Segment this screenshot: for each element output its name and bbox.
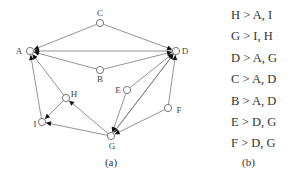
node-c: C [96,8,103,27]
node-label: H [71,89,78,99]
directed-graph: ABCDEFGHI (a) [0,0,210,178]
node-h: H [62,89,77,102]
edge-b-to-a [34,52,97,69]
graph-edges [31,24,176,135]
rule-item: G > I, H [231,27,295,48]
caption-b: (b) [242,156,255,168]
node-label: A [16,46,23,56]
edge-g-to-d [113,54,173,133]
node-label: C [97,8,103,18]
edge-e-to-d [130,54,173,88]
node-circle [164,104,171,111]
node-f: F [164,104,181,115]
edge-h-to-a [32,54,63,95]
rule-item: E > D, G [231,113,295,134]
rule-item: D > A, G [231,49,295,70]
graph-nodes: ABCDEFGHI [16,8,189,151]
node-e: E [115,85,130,95]
edge-c-to-a [34,24,97,49]
node-a: A [16,46,34,56]
node-circle [123,86,130,93]
node-circle [38,118,45,125]
dominance-rules-list: H > A, I G > I, H D > A, G C > A, D B > … [231,6,295,156]
rule-item: C > A, D [231,70,295,91]
edge-h-to-i [45,101,64,120]
node-circle [96,66,103,73]
node-circle [107,132,114,139]
node-label: F [176,105,181,115]
node-circle [26,47,33,54]
node-circle [96,19,103,26]
node-label: D [182,46,189,56]
node-d: D [172,46,188,56]
node-circle [172,47,179,54]
node-label: E [115,85,121,95]
node-b: B [96,66,103,84]
rule-item: H > A, I [231,6,295,27]
rule-item: B > A, D [231,92,295,113]
edge-b-to-d [103,52,172,69]
edge-f-to-d [169,55,176,104]
caption-a: (a) [105,156,118,169]
edge-e-to-g [112,93,125,132]
edge-i-to-a [31,55,42,118]
node-label: I [34,119,37,129]
node-label: B [97,74,103,84]
edge-g-to-i [46,123,107,135]
node-i: I [34,118,46,129]
node-g: G [107,132,115,151]
node-circle [62,94,69,101]
node-label: G [109,141,116,151]
rule-item: F > D, G [231,134,295,155]
edge-c-to-d [103,24,172,49]
